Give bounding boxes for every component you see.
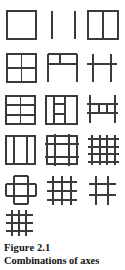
- figure-caption: Figure 2.1 Combinations of axes: [4, 241, 125, 267]
- diagram-square-with-one-vertical-divider: [84, 6, 125, 45]
- diagram-closed-square: [2, 6, 43, 45]
- diagram-two-parallel-vertical-lines: [43, 6, 84, 45]
- diagram-square-with-inner-ladder: [43, 92, 84, 131]
- diagram-square-three-columns: [2, 133, 43, 172]
- caption-label: Figure 2.1: [4, 241, 125, 254]
- figure-container: Figure 2.1 Combinations of axes: [0, 0, 125, 270]
- diagram-square-six-cells: [2, 92, 43, 131]
- caption-title: Combinations of axes: [4, 254, 125, 267]
- diagram-open-bottom-square-with-top-cell: [43, 51, 84, 90]
- diagram-hash-two-by-two: [84, 174, 125, 213]
- diagram-grid: [0, 0, 125, 238]
- diagram-open-grid-four-corner-cells: [84, 133, 125, 172]
- diagram-h-shape-two-verticals-one-crossbar: [84, 51, 125, 90]
- diagram-open-ladder-between-verticals: [84, 92, 125, 131]
- diagram-square-grid-with-overhangs: [43, 133, 84, 172]
- diagram-hash-three-by-three: [43, 174, 84, 213]
- diagram-square-quartered: [2, 51, 43, 90]
